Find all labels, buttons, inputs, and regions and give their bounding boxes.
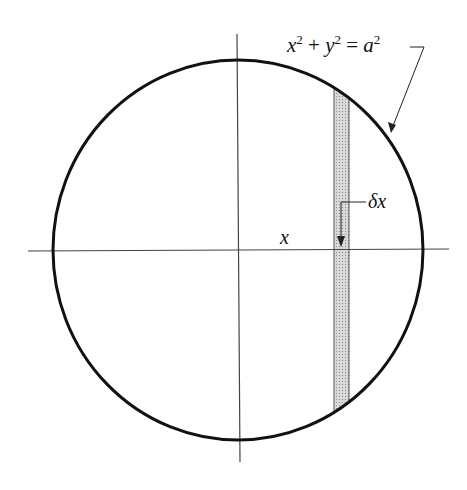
- equation-label: x2 + y2 = a2: [286, 32, 380, 57]
- delta-x-label: δx: [368, 190, 386, 212]
- equation-pointer-arrow: [388, 47, 424, 133]
- x-label: x: [279, 226, 289, 248]
- delta-x-pointer-arrow: [337, 202, 366, 247]
- circle-strip-diagram: x2 + y2 = a2 x δx: [0, 0, 467, 490]
- y-axis: [237, 34, 240, 462]
